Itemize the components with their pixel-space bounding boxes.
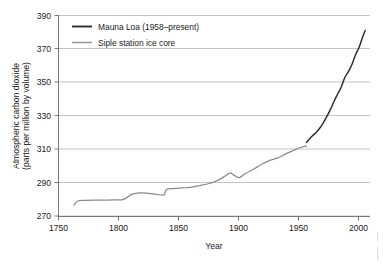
y-tick-marks [55, 16, 59, 217]
y-tick-label-290: 290 [37, 178, 52, 188]
edge-artifact-mark-bottom [377, 247, 378, 260]
x-tick-label-1750: 1750 [49, 223, 68, 233]
y-axis-title-line2: (parts per million by volume) [21, 62, 31, 170]
x-tick-labels: 1750 1800 1850 1900 1950 2000 [49, 223, 368, 233]
x-tick-marks [59, 217, 359, 221]
legend-label-mauna-loa: Mauna Loa (1958–present) [98, 22, 199, 32]
data-series [74, 31, 365, 205]
y-tick-label-390: 390 [37, 11, 52, 21]
legend: Mauna Loa (1958–present) Siple station i… [72, 22, 199, 48]
y-tick-label-370: 370 [37, 44, 52, 54]
chart-canvas: 390 370 350 330 310 290 270 1750 1800 18… [0, 0, 383, 268]
page-edge-artifact [377, 232, 378, 260]
x-tick-label-1800: 1800 [109, 223, 128, 233]
y-tick-labels: 390 370 350 330 310 290 270 [37, 11, 52, 222]
y-tick-label-270: 270 [37, 211, 52, 221]
co2-line-chart: 390 370 350 330 310 290 270 1750 1800 18… [0, 0, 383, 268]
legend-label-siple-station: Siple station ice core [98, 38, 176, 48]
x-tick-label-2000: 2000 [349, 223, 368, 233]
series-line-siple-station-ice-core [74, 146, 306, 205]
edge-artifact-mark-top [377, 232, 378, 241]
y-axis-title: Atmospheric carbon dioxide (parts per mi… [11, 62, 31, 170]
y-tick-label-330: 330 [37, 111, 52, 121]
y-axis-title-line1: Atmospheric carbon dioxide [11, 63, 21, 169]
y-tick-label-310: 310 [37, 144, 52, 154]
x-axis-title: Year [205, 241, 223, 251]
x-tick-label-1850: 1850 [169, 223, 188, 233]
x-tick-label-1950: 1950 [289, 223, 308, 233]
x-tick-label-1900: 1900 [229, 223, 248, 233]
series-line-mauna-loa [307, 31, 366, 143]
y-tick-label-350: 350 [37, 77, 52, 87]
